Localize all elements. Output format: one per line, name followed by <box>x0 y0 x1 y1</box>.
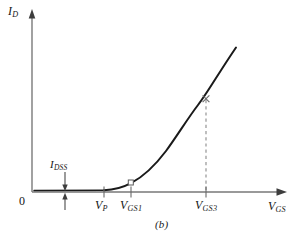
vp-tick-label: VP <box>95 199 108 211</box>
vgs3-label-sub: GS3 <box>203 204 218 213</box>
y-axis-label-sub: D <box>12 10 18 19</box>
vgs3-tick-label: VGS3 <box>195 199 217 211</box>
transfer-characteristic-figure: ID VGS 0 IDSS VP VGS1 VGS3 (b) <box>0 0 306 236</box>
vgs1-label-main: V <box>120 198 128 212</box>
idss-label: IDSS <box>50 159 67 170</box>
y-axis-label: ID <box>8 5 18 17</box>
vgs1-tick-label: VGS1 <box>120 199 142 211</box>
x-axis-label: VGS <box>268 200 286 212</box>
vgs1-label-sub: GS1 <box>128 204 143 213</box>
figure-caption: (b) <box>155 219 168 230</box>
marker-vgs1-square <box>128 180 133 185</box>
idss-arrow-up <box>62 193 67 210</box>
transfer-curve <box>104 48 236 191</box>
idss-label-sub: DSS <box>54 163 67 172</box>
plot-canvas <box>0 0 306 236</box>
vp-label-sub: P <box>103 204 108 213</box>
idss-arrow-down <box>62 172 67 191</box>
x-axis <box>32 188 287 196</box>
vp-label-main: V <box>95 198 103 212</box>
x-axis-label-main: V <box>268 199 276 213</box>
vgs3-label-main: V <box>195 198 203 212</box>
x-axis-label-sub: GS <box>276 205 286 214</box>
origin-label: 0 <box>19 195 25 207</box>
y-axis <box>29 9 36 192</box>
